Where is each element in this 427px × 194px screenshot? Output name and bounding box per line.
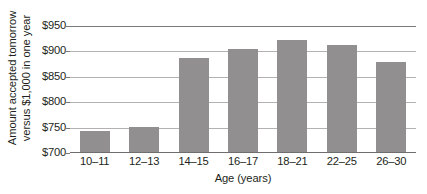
y-axis-tick-label: $950 xyxy=(22,20,66,31)
y-axis-tick-label: $900 xyxy=(22,45,66,56)
y-axis-tick-mark xyxy=(65,77,70,78)
y-axis-tick-label: $750 xyxy=(22,122,66,133)
x-axis-tick-label: 12–13 xyxy=(119,155,168,168)
bar-chart-figure: Amount accepted tomorrow versus $1,000 i… xyxy=(0,0,427,194)
y-axis-tick-mark xyxy=(65,128,70,129)
y-axis-tick-mark xyxy=(65,102,70,103)
y-axis-tick-label: $700 xyxy=(22,147,66,158)
bar xyxy=(327,45,357,153)
plot-area xyxy=(70,26,416,153)
y-axis-tick-label: $800 xyxy=(22,96,66,107)
x-axis-line xyxy=(70,152,416,153)
y-axis-tick-mark xyxy=(65,26,70,27)
x-axis-tick-label: 10–11 xyxy=(70,155,119,168)
bar xyxy=(277,40,307,153)
bar xyxy=(179,58,209,153)
y-axis-tick-label: $850 xyxy=(22,71,66,82)
y-axis-tick-labels: $700$750$800$850$900$950 xyxy=(16,0,66,194)
x-axis-tick-label: 18–21 xyxy=(268,155,317,168)
x-axis-tick-label: 16–17 xyxy=(218,155,267,168)
x-axis-tick-labels: 10–1112–1314–1516–1718–2122–2526–30 xyxy=(70,155,416,171)
x-axis-tick-label: 26–30 xyxy=(367,155,416,168)
y-axis-tick-mark xyxy=(65,51,70,52)
bar xyxy=(129,127,159,153)
bar xyxy=(80,131,110,153)
bar xyxy=(228,49,258,153)
x-axis-tick-label: 22–25 xyxy=(317,155,366,168)
gridline xyxy=(70,26,416,27)
bar xyxy=(376,62,406,153)
x-axis-title: Age (years) xyxy=(70,172,416,184)
x-axis-tick-label: 14–15 xyxy=(169,155,218,168)
